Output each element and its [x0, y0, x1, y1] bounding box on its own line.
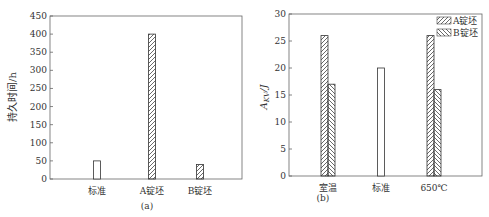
y-tick-label: 450	[30, 11, 47, 21]
y-tick-label: 400	[30, 29, 47, 39]
chart-b: 051015202530 AKV/J 室温标准650℃ A锭坯 B锭坯 (b)	[245, 0, 489, 217]
y-axis-label: AKV/J	[258, 84, 271, 111]
y-tick-label: 0	[41, 174, 47, 184]
legend-swatch-a	[437, 17, 451, 24]
legend-label-b: B锭坯	[453, 27, 478, 38]
plot-frame	[50, 16, 242, 179]
x-tick-label: 室温	[319, 182, 337, 193]
y-tick-label: 50	[36, 156, 48, 166]
y-tick-label: 30	[275, 9, 287, 19]
y-tick-label: 250	[30, 83, 47, 93]
bars	[321, 36, 441, 176]
chart-b-svg: 051015202530 AKV/J 室温标准650℃ A锭坯 B锭坯 (b)	[245, 0, 489, 217]
y-tick-label: 350	[30, 47, 47, 57]
x-tick-label: 标准	[88, 185, 106, 196]
y-axis-ticks: 050100150200250300350400450	[30, 11, 53, 184]
bar	[378, 68, 385, 176]
bar	[94, 161, 101, 179]
panel-label: (a)	[141, 201, 153, 211]
y-tick-label: 300	[30, 65, 47, 75]
chart-a: 050100150200250300350400450 持久时间/h 标准A锭坯…	[0, 0, 245, 217]
legend-label-a: A锭坯	[452, 15, 478, 26]
bar	[427, 36, 434, 176]
panel-label: (b)	[317, 193, 330, 203]
bars	[94, 34, 204, 179]
bar	[321, 36, 328, 176]
legend: A锭坯 B锭坯	[437, 15, 478, 38]
x-tick-label: A锭坯	[139, 185, 165, 196]
bar	[434, 90, 441, 176]
y-tick-label: 25	[275, 36, 287, 46]
legend-swatch-b	[437, 29, 451, 36]
y-tick-label: 20	[275, 63, 287, 73]
y-tick-label: 150	[30, 120, 47, 130]
x-axis-labels: 室温标准650℃	[319, 182, 448, 193]
bar	[149, 34, 156, 179]
x-tick-label: 标准	[372, 182, 390, 193]
y-tick-label: 5	[280, 144, 286, 154]
chart-a-svg: 050100150200250300350400450 持久时间/h 标准A锭坯…	[0, 0, 245, 217]
y-tick-label: 200	[30, 102, 47, 112]
y-tick-label: 0	[280, 171, 286, 181]
x-tick-label: 650℃	[420, 183, 447, 193]
y-tick-label: 100	[30, 138, 47, 148]
plot-frame	[289, 14, 482, 176]
x-axis-labels: 标准A锭坯B锭坯	[88, 185, 212, 196]
bar	[197, 165, 204, 179]
y-axis-label: 持久时间/h	[6, 72, 18, 122]
y-tick-label: 15	[275, 90, 287, 100]
y-tick-label: 10	[275, 117, 287, 127]
bar	[328, 84, 335, 176]
x-tick-label: B锭坯	[188, 185, 213, 196]
